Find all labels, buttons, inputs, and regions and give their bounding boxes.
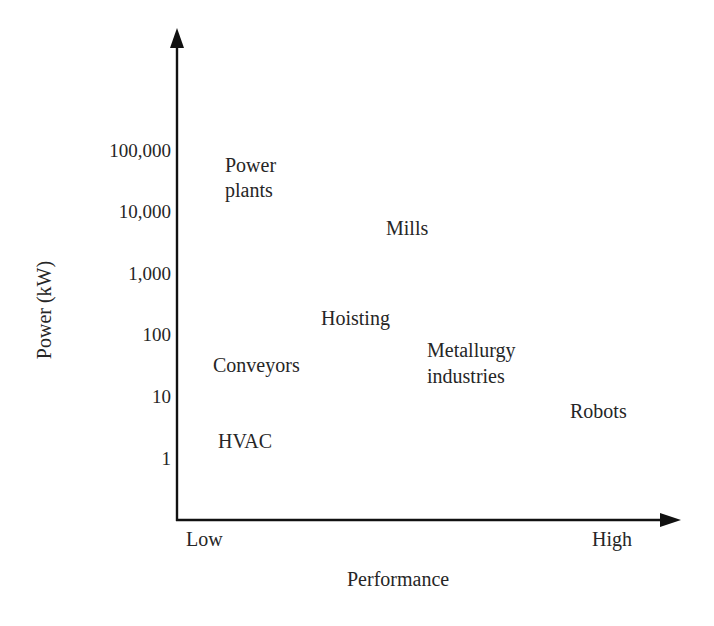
y-tick-100: 100 <box>143 324 172 345</box>
label-hvac: HVAC <box>218 430 272 452</box>
y-tick-1: 1 <box>162 448 172 469</box>
x-axis-title: Performance <box>347 568 449 590</box>
y-axis-arrow-icon <box>170 28 184 48</box>
y-tick-1000: 1,000 <box>128 263 171 284</box>
x-axis-arrow-icon <box>660 513 681 527</box>
y-tick-100000: 100,000 <box>109 140 171 161</box>
label-power-plants-line2: plants <box>225 179 273 202</box>
label-robots: Robots <box>570 400 627 422</box>
label-metallurgy-line2: industries <box>427 365 505 387</box>
label-mills: Mills <box>386 217 428 239</box>
label-hoisting: Hoisting <box>321 307 390 330</box>
label-conveyors: Conveyors <box>213 354 300 377</box>
y-tick-10: 10 <box>152 386 171 407</box>
x-tick-low: Low <box>186 528 223 550</box>
label-power-plants-line1: Power <box>225 154 276 176</box>
x-tick-high: High <box>592 528 632 551</box>
label-metallurgy-line1: Metallurgy <box>427 339 516 362</box>
power-performance-diagram: 100,000 10,000 1,000 100 10 1 Power (kW)… <box>0 0 714 626</box>
y-axis-title: Power (kW) <box>33 261 56 359</box>
y-tick-10000: 10,000 <box>119 201 171 222</box>
